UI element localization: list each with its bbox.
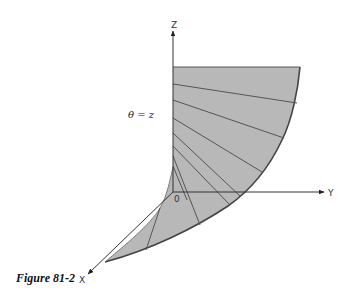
y-axis-label: Y — [327, 188, 334, 198]
origin-label: 0 — [174, 194, 180, 204]
surface-region — [105, 67, 300, 262]
x-axis-label: X — [79, 275, 85, 285]
figure-caption: Figure 81-2 — [15, 271, 75, 285]
helicoid-figure: Z Y X 0 θ = z Figure 81-2 — [0, 0, 352, 294]
theta-equals-z-label: θ = z — [128, 109, 155, 120]
z-axis-label: Z — [171, 20, 177, 30]
